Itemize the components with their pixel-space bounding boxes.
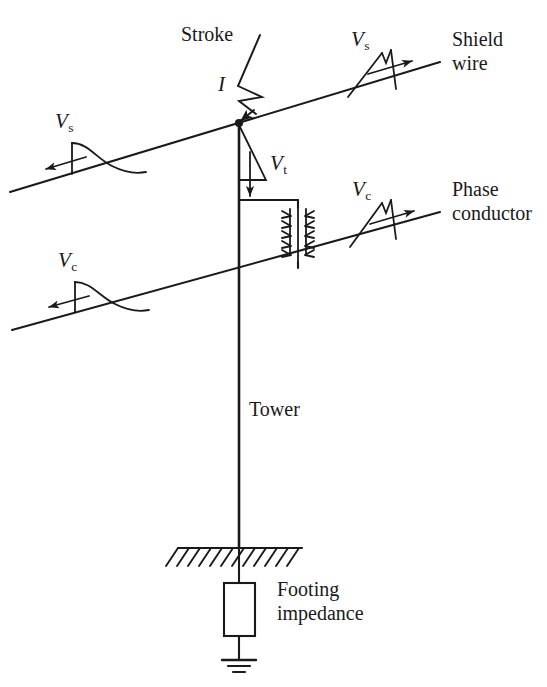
vs-left-label: Vs [55, 110, 74, 135]
vt-subscript: t [283, 162, 287, 177]
tower-label: Tower [249, 398, 300, 420]
vs-right-subscript: s [364, 38, 369, 53]
insulator-string [282, 206, 314, 268]
vc-right-symbol: V [352, 177, 365, 201]
footing-impedance-symbol [224, 548, 255, 660]
diagram-canvas [0, 0, 547, 687]
vc-right-waveform [350, 200, 414, 247]
vs-left-symbol: V [55, 109, 68, 133]
footing-impedance-label-line1: Footing [277, 578, 364, 602]
vc-left-symbol: V [58, 248, 71, 272]
phase-conductor-label-line1: Phase [452, 178, 532, 202]
footing-impedance-label: Footing impedance [277, 578, 364, 625]
phase-conductor-label: Phase conductor [452, 178, 532, 225]
current-symbol-label: I [218, 73, 225, 97]
vc-right-label: Vc [352, 178, 371, 203]
lightning-stroke-icon [238, 35, 262, 121]
ground-surface [166, 548, 302, 566]
stroke-label: Stroke [181, 23, 233, 45]
vc-left-label: Vc [58, 249, 77, 274]
phase-conductor-label-line2: conductor [452, 202, 532, 226]
crossarm [239, 200, 298, 208]
vt-waveform [240, 127, 266, 196]
vc-right-subscript: c [365, 188, 371, 203]
footing-impedance-label-line2: impedance [277, 602, 364, 626]
shield-wire-label: Shield wire [452, 28, 503, 75]
lightning-stroke-tower-diagram: Stroke I Vs Shield wire Vs Vt Vc Phase c… [0, 0, 547, 687]
vc-left-subscript: c [71, 259, 77, 274]
shield-wire [10, 62, 440, 192]
vt-symbol: V [270, 151, 283, 175]
vs-left-subscript: s [68, 120, 73, 135]
vs-left-waveform [46, 143, 146, 174]
vs-right-label: Vs [351, 28, 370, 53]
shield-wire-label-line1: Shield [452, 28, 503, 52]
shield-wire-label-line2: wire [452, 52, 503, 76]
vt-label: Vt [270, 152, 287, 177]
earth-ground-icon [222, 660, 256, 672]
vs-right-symbol: V [351, 27, 364, 51]
